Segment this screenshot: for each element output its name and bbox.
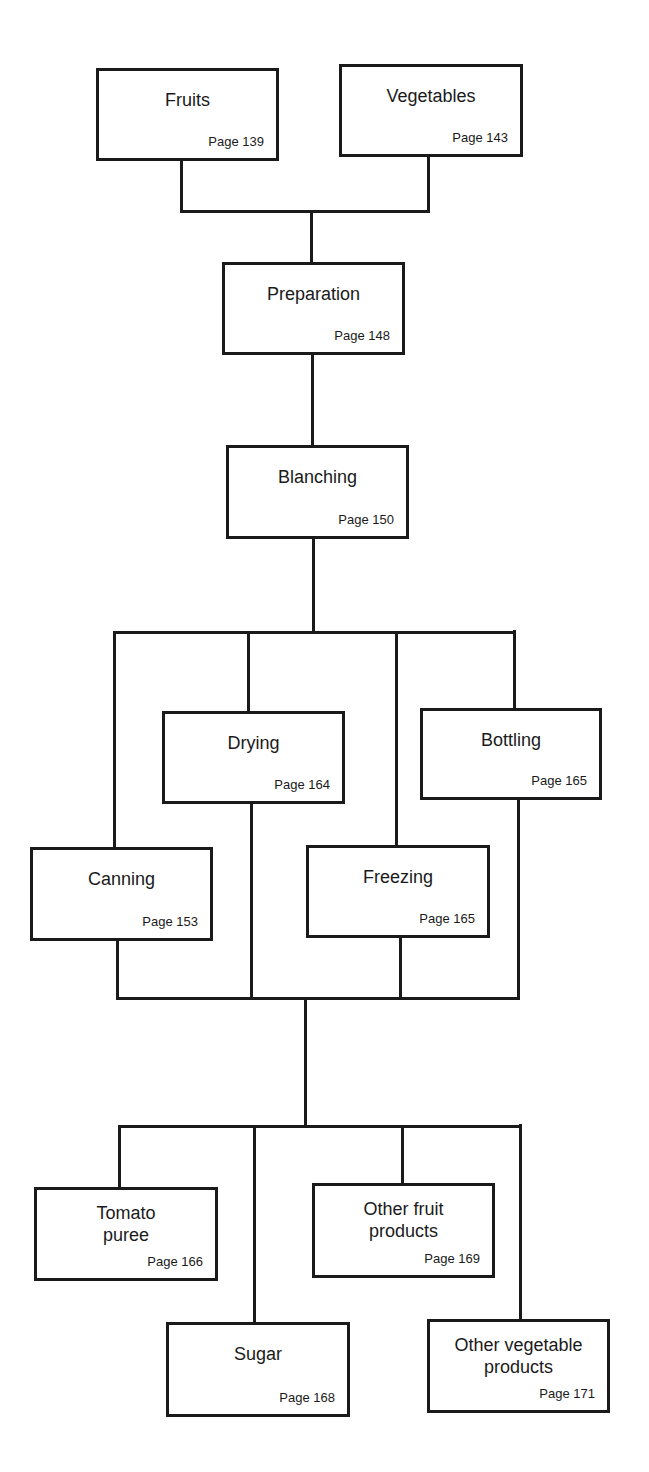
node-label: Other fruit products: [315, 1198, 492, 1242]
connector-to-other-fruit-products: [401, 1125, 404, 1184]
node-label-line: puree: [37, 1224, 215, 1246]
node-bottling: Bottling Page 165: [420, 708, 602, 800]
node-label: Bottling: [423, 729, 599, 751]
page-reference: Page 153: [142, 914, 198, 929]
node-sugar: Sugar Page 168: [166, 1322, 350, 1417]
node-label-line: products: [430, 1356, 607, 1378]
page-reference: Page 165: [419, 911, 475, 926]
connector-to-freezing: [395, 632, 398, 846]
node-drying: Drying Page 164: [162, 711, 345, 804]
node-label: Canning: [33, 868, 210, 890]
node-label: Blanching: [229, 466, 406, 488]
node-preparation: Preparation Page 148: [222, 262, 405, 355]
node-label: Preparation: [225, 283, 402, 305]
node-freezing: Freezing Page 165: [306, 845, 490, 938]
connector-method-split-bar: [113, 631, 516, 634]
connector-vegetables-down: [427, 156, 430, 212]
node-label: Drying: [165, 732, 342, 754]
connector-blanching-down: [312, 538, 315, 632]
node-canning: Canning Page 153: [30, 847, 213, 941]
page-reference: Page 143: [452, 130, 508, 145]
page-reference: Page 168: [279, 1390, 335, 1405]
node-vegetables: Vegetables Page 143: [339, 64, 523, 157]
connector-to-other-vegetable-products: [519, 1124, 522, 1320]
page-reference: Page 165: [531, 773, 587, 788]
page-reference: Page 171: [539, 1386, 595, 1401]
node-label: Fruits: [99, 89, 276, 111]
connector-freezing-down: [399, 937, 402, 999]
flowchart: Fruits Page 139 Vegetables Page 143 Prep…: [0, 0, 649, 1472]
connector-method-merge-bar: [116, 997, 520, 1000]
connector-to-sugar: [253, 1126, 256, 1323]
connector-to-products: [304, 998, 307, 1126]
page-reference: Page 150: [338, 512, 394, 527]
node-other-vegetable-products: Other vegetable products Page 171: [427, 1319, 610, 1413]
node-label: Sugar: [169, 1343, 347, 1365]
connector-to-preparation: [310, 212, 313, 263]
node-label-line: Other vegetable: [430, 1334, 607, 1356]
node-label-line: Tomato: [37, 1202, 215, 1224]
node-other-fruit-products: Other fruit products Page 169: [312, 1183, 495, 1278]
connector-preparation-to-blanching: [311, 354, 314, 446]
connector-to-tomato-puree: [118, 1126, 121, 1188]
connector-to-bottling: [513, 630, 516, 709]
connector-fruits-down: [180, 160, 183, 213]
page-reference: Page 164: [274, 777, 330, 792]
page-reference: Page 139: [208, 134, 264, 149]
connector-to-drying: [247, 632, 250, 712]
node-tomato-puree: Tomato puree Page 166: [34, 1187, 218, 1281]
node-fruits: Fruits Page 139: [96, 68, 279, 161]
connector-drying-down: [250, 803, 253, 1000]
connector-bottling-down: [517, 799, 520, 998]
page-reference: Page 166: [147, 1254, 203, 1269]
node-label: Vegetables: [342, 85, 520, 107]
connector-canning-down: [116, 940, 119, 1000]
page-reference: Page 148: [334, 328, 390, 343]
node-label: Other vegetable products: [430, 1334, 607, 1378]
connector-top-merge-bar: [180, 210, 430, 213]
node-label: Freezing: [309, 866, 487, 888]
connector-product-split-bar: [118, 1125, 521, 1128]
connector-to-canning: [113, 632, 116, 848]
node-label-line: Other fruit: [315, 1198, 492, 1220]
node-label-line: products: [315, 1220, 492, 1242]
page-reference: Page 169: [424, 1251, 480, 1266]
node-blanching: Blanching Page 150: [226, 445, 409, 539]
node-label: Tomato puree: [37, 1202, 215, 1246]
